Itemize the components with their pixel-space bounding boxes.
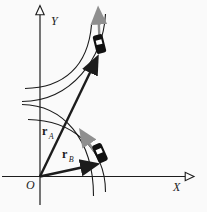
- diagram-svg: Y X O rA rB: [0, 0, 207, 212]
- x-axis-arrowhead: [185, 172, 194, 180]
- road-upper-lane-left-edge: [25, 25, 92, 89]
- figure-canvas: Y X O rA rB: [0, 0, 207, 212]
- car-b: [92, 142, 109, 163]
- car-a: [92, 34, 106, 55]
- road-curves: [22, 14, 106, 196]
- y-axis-label: Y: [51, 14, 59, 28]
- coordinate-axes: [2, 15, 186, 206]
- y-axis-arrowhead: [36, 6, 44, 15]
- position-vector-b: [40, 167, 84, 177]
- vector-a-label: rA: [42, 124, 54, 141]
- vector-b-label: rB: [62, 147, 74, 164]
- origin-label: O: [26, 178, 35, 192]
- x-axis-label: X: [172, 180, 181, 194]
